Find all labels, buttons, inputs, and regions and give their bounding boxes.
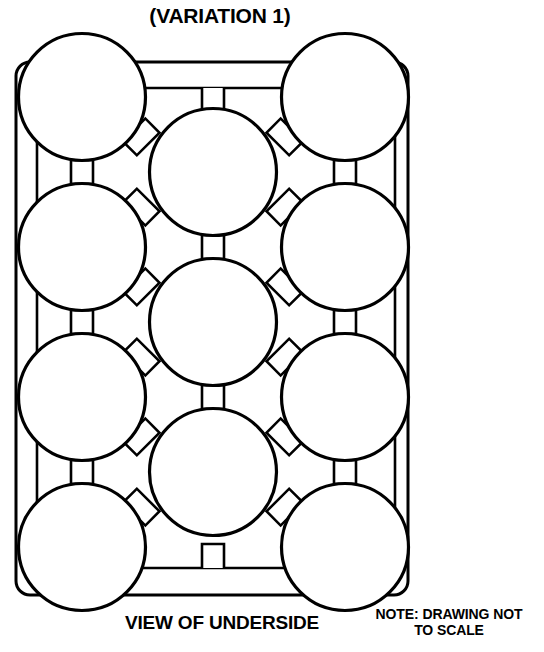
view-caption: VIEW OF UNDERSIDE	[92, 612, 352, 634]
cavity-circle-center-2	[150, 259, 277, 386]
connector-tab	[71, 160, 93, 184]
cavity-circle-left-1	[19, 34, 146, 161]
connector-tab	[71, 460, 93, 484]
connector-tab	[334, 310, 356, 334]
cavity-circle-center-1	[150, 109, 277, 236]
scale-note: NOTE: DRAWING NOT TO SCALE	[360, 606, 538, 638]
cavity-circle-left-3	[19, 334, 146, 461]
cavity-circle-right-1	[282, 34, 409, 161]
connector-tab	[71, 310, 93, 334]
scale-note-line1: NOTE: DRAWING NOT	[360, 606, 538, 622]
figure-canvas: (VARIATION 1)	[0, 0, 544, 652]
cavity-circle-left-4	[19, 484, 146, 611]
connector-tab-center	[202, 235, 224, 259]
connector-tab-center	[202, 385, 224, 409]
tray-underside-drawing	[0, 0, 544, 652]
cavity-circle-right-2	[282, 184, 409, 311]
cavity-circle-left-2	[19, 184, 146, 311]
connector-tab	[334, 160, 356, 184]
scale-note-line2: TO SCALE	[360, 622, 538, 638]
connector-tab	[334, 460, 356, 484]
cavity-circle-right-4	[282, 484, 409, 611]
cavity-circle-center-3	[150, 409, 277, 536]
frame-stub-bottom	[202, 544, 224, 568]
cavity-circle-right-3	[282, 334, 409, 461]
